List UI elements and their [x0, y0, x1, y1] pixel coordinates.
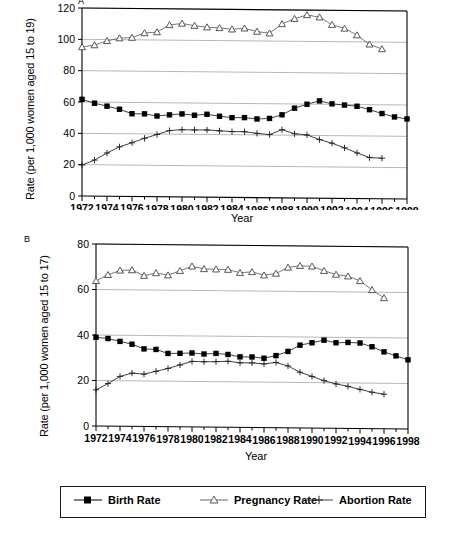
svg-text:1976: 1976: [132, 432, 156, 444]
open-triangle-marker-icon: [199, 494, 229, 506]
legend-label-birth-rate: Birth Rate: [108, 494, 161, 506]
svg-text:1974: 1974: [95, 202, 119, 210]
panel-b-y-axis-label: Rate (per 1,000 women aged 15 to 17): [38, 237, 50, 437]
svg-text:1978: 1978: [145, 203, 169, 210]
plus-marker-icon: [304, 494, 334, 506]
svg-text:1978: 1978: [156, 433, 180, 445]
svg-text:1994: 1994: [348, 435, 372, 447]
svg-text:1980: 1980: [180, 433, 204, 445]
panel-a-y-axis-label: Rate (per 1,000 women aged 15 to 19): [24, 0, 36, 200]
svg-text:1998: 1998: [396, 435, 420, 447]
svg-text:1994: 1994: [345, 205, 369, 210]
svg-text:1972: 1972: [84, 432, 108, 444]
panel-b-x-axis-label: Year: [96, 450, 416, 462]
filled-square-marker-icon: [73, 494, 103, 506]
svg-text:100: 100: [57, 33, 75, 45]
svg-text:40: 40: [77, 329, 89, 341]
svg-text:20: 20: [77, 374, 89, 386]
svg-text:1988: 1988: [270, 204, 294, 210]
svg-text:60: 60: [77, 283, 89, 295]
svg-text:1992: 1992: [324, 434, 348, 446]
legend-label-abortion-rate: Abortion Rate: [339, 494, 412, 506]
legend-item-birth-rate: Birth Rate: [73, 494, 161, 506]
svg-text:1992: 1992: [320, 204, 344, 210]
svg-text:1976: 1976: [120, 202, 144, 210]
svg-text:120: 120: [57, 2, 75, 14]
svg-text:1990: 1990: [295, 204, 319, 210]
panel-b-plot: 0204060801972197419761978198019821984198…: [58, 232, 452, 447]
panel-a-plot: 0204060801001201972197419761978198019821…: [44, 0, 452, 210]
svg-text:0: 0: [83, 420, 89, 432]
chart-legend: Birth Rate Pregnancy Rate Abortion Rate: [60, 486, 426, 518]
svg-text:80: 80: [63, 64, 75, 76]
panel-a-x-axis-label: Year: [82, 212, 402, 224]
svg-text:1988: 1988: [276, 434, 300, 446]
legend-item-abortion-rate: Abortion Rate: [304, 494, 412, 506]
svg-text:0: 0: [69, 190, 75, 202]
svg-text:1980: 1980: [170, 203, 194, 210]
svg-text:80: 80: [77, 238, 89, 250]
svg-text:1986: 1986: [245, 204, 269, 210]
svg-text:1984: 1984: [220, 203, 244, 210]
svg-text:1998: 1998: [395, 205, 419, 210]
svg-text:1990: 1990: [300, 434, 324, 446]
svg-text:1982: 1982: [195, 203, 219, 210]
svg-text:40: 40: [63, 127, 75, 139]
svg-text:1996: 1996: [372, 435, 396, 447]
svg-text:1982: 1982: [204, 433, 228, 445]
svg-text:1996: 1996: [370, 205, 394, 210]
chart-panel-b: B Rate (per 1,000 women aged 15 to 17) 0…: [0, 232, 452, 470]
svg-text:1974: 1974: [108, 432, 132, 444]
svg-text:1986: 1986: [252, 434, 276, 446]
legend-item-pregnancy-rate: Pregnancy Rate: [199, 494, 317, 506]
svg-text:1984: 1984: [228, 433, 252, 445]
svg-text:60: 60: [63, 96, 75, 108]
svg-text:20: 20: [63, 158, 75, 170]
chart-panel-a: A Rate (per 1,000 women aged 15 to 19) 0…: [0, 0, 452, 232]
figure-container: A Rate (per 1,000 women aged 15 to 19) 0…: [0, 0, 452, 537]
panel-b-letter: B: [24, 234, 30, 244]
svg-text:1972: 1972: [70, 202, 94, 210]
